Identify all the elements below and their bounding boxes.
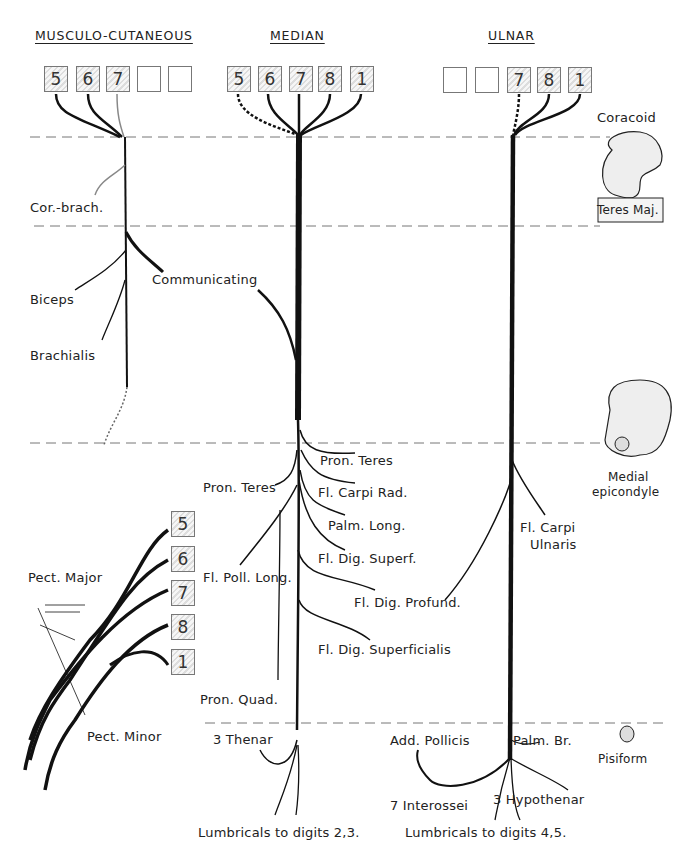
label-palm-long: Palm. Long. — [328, 518, 406, 533]
plexus-root-box: 5 — [171, 511, 195, 537]
plexus-root-box: 6 — [171, 546, 195, 572]
root-box: 8 — [537, 67, 561, 93]
label-coracoid: Coracoid — [597, 110, 656, 125]
label-lumbricals-4-5: Lumbricals to digits 4,5. — [405, 825, 566, 840]
header-ulnar: ULNAR — [488, 28, 535, 43]
label-lumbricals-2-3: Lumbricals to digits 2,3. — [198, 825, 359, 840]
label-hypothenar: 3 Hypothenar — [493, 792, 584, 807]
label-fl-dig-profund: Fl. Dig. Profund. — [354, 595, 461, 610]
label-medial: Medial — [608, 470, 649, 484]
label-pect-major: Pect. Major — [28, 570, 102, 585]
label-pron-quad: Pron. Quad. — [200, 692, 278, 707]
label-add-pollicis: Add. Pollicis — [390, 733, 470, 748]
label-brachialis: Brachialis — [30, 348, 95, 363]
label-pisiform: Pisiform — [598, 752, 647, 766]
label-fl-carpi-ulnaris-2: Ulnaris — [530, 537, 576, 552]
root-box-empty — [475, 67, 499, 93]
label-fl-poll-long: Fl. Poll. Long. — [203, 570, 292, 585]
label-cor-brach: Cor.-brach. — [30, 200, 103, 215]
header-median: MEDIAN — [270, 28, 325, 43]
root-box: 8 — [318, 66, 342, 92]
label-biceps: Biceps — [30, 292, 74, 307]
root-box: 6 — [258, 66, 282, 92]
bones — [598, 132, 671, 742]
root-box: 7 — [289, 66, 313, 92]
label-fl-carpi-ulnaris-1: Fl. Carpi — [520, 520, 575, 535]
plexus-root-box: 7 — [171, 580, 195, 606]
label-pron-teres-left: Pron. Teres — [203, 480, 276, 495]
label-fl-dig-superf: Fl. Dig. Superf. — [318, 551, 417, 566]
label-pron-teres-right: Pron. Teres — [320, 453, 393, 468]
label-epicondyle: epicondyle — [592, 485, 659, 499]
label-fl-carpi-rad: Fl. Carpi Rad. — [318, 485, 408, 500]
label-thenar: 3 Thenar — [213, 732, 273, 747]
root-box-empty — [168, 66, 192, 92]
root-box: 1 — [350, 66, 374, 92]
label-communicating: Communicating — [152, 272, 257, 287]
label-pect-minor: Pect. Minor — [87, 729, 161, 744]
root-box: 1 — [568, 67, 592, 93]
root-box: 7 — [106, 66, 130, 92]
root-box: 7 — [507, 67, 531, 93]
root-box-empty — [137, 66, 161, 92]
root-box: 5 — [44, 66, 68, 92]
ulnar-nerve — [417, 94, 580, 820]
label-palm-br: Palm. Br. — [513, 733, 572, 748]
coracoid-bone — [603, 132, 662, 198]
label-interossei: 7 Interossei — [390, 798, 468, 813]
plexus-root-box: 8 — [171, 614, 195, 640]
root-box: 5 — [227, 66, 251, 92]
root-box-empty — [443, 67, 467, 93]
brachial-plexus — [25, 530, 168, 790]
musculocutaneous-nerve — [56, 94, 163, 445]
label-fl-dig-superficialis: Fl. Dig. Superficialis — [318, 642, 451, 657]
label-teres-major: Teres Maj. — [597, 203, 659, 217]
plexus-root-box: 1 — [171, 649, 195, 675]
header-musculocutaneous: MUSCULO-CUTANEOUS — [35, 28, 193, 43]
root-box: 6 — [76, 66, 100, 92]
pisiform-bone — [620, 726, 634, 742]
